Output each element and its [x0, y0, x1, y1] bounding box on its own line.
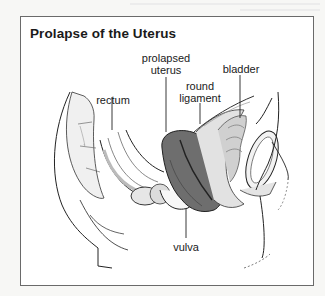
label-bladder: bladder	[215, 63, 267, 75]
label-prolapsed-uterus: prolapsed uterus	[140, 52, 192, 76]
sacrum	[66, 92, 104, 198]
label-vulva: vulva	[166, 241, 206, 253]
label-rectum: rectum	[92, 94, 134, 106]
anatomical-illustration	[0, 0, 325, 296]
label-round-ligament: round ligament	[174, 80, 226, 104]
